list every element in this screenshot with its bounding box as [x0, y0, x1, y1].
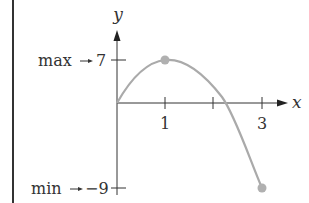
min-point — [258, 184, 267, 193]
max-annotation: max — [38, 51, 72, 70]
min-arrow-icon — [78, 187, 83, 191]
min-value: −9 — [85, 179, 109, 198]
max-value: 7 — [96, 51, 106, 70]
x-tick-label-1: 1 — [160, 114, 170, 133]
max-arrow-icon — [88, 59, 93, 63]
chart: y x 1 3 max 7 min −9 — [0, 0, 309, 203]
y-axis-arrow-icon — [114, 30, 121, 41]
min-annotation: min — [31, 179, 62, 198]
y-axis-label: y — [112, 4, 123, 24]
max-point — [161, 56, 170, 65]
x-axis-label: x — [292, 92, 302, 112]
function-curve — [117, 60, 262, 188]
x-tick-label-3: 3 — [257, 114, 267, 133]
x-axis-arrow-icon — [277, 100, 288, 107]
